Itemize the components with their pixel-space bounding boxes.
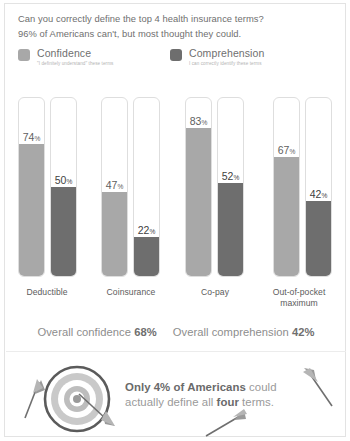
dart-icon-center <box>75 390 117 432</box>
bar-fill <box>218 183 243 276</box>
bar-value-label: 67% <box>274 144 299 156</box>
bar-value-label: 83% <box>186 115 211 127</box>
dart-icon-left <box>15 376 51 422</box>
bar-value-label: 22% <box>134 224 159 236</box>
bar-fill <box>134 237 159 276</box>
bar-fill <box>102 192 127 276</box>
bar-value-label: 42% <box>306 188 331 200</box>
bar-copay-comprehension: 52% <box>217 97 244 277</box>
bar-fill <box>51 187 76 276</box>
footer: Only 4% of Americans could actually defi… <box>5 354 347 438</box>
divider <box>6 351 346 352</box>
bar-fill <box>19 144 44 276</box>
bar-coinsurance-comprehension: 22% <box>133 97 160 277</box>
footer-lead: Only 4% of Americans <box>125 381 246 393</box>
category-label-coinsurance: Coinsurance <box>83 287 179 298</box>
bar-fill <box>186 128 211 276</box>
bar-deductible-confidence: 74% <box>18 97 45 277</box>
bar-fill <box>274 157 299 276</box>
footer-text: Only 4% of Americans could actually defi… <box>125 380 305 410</box>
overall-comprehension-text: Overall comprehension <box>173 326 292 338</box>
bar-oopmax-confidence: 67% <box>273 97 300 277</box>
overall-confidence-text: Overall confidence <box>37 326 134 338</box>
infographic-card: Can you correctly define the top 4 healt… <box>4 3 346 437</box>
bar-coinsurance-confidence: 47% <box>101 97 128 277</box>
footer-tail: terms. <box>239 396 274 408</box>
bar-value-label: 74% <box>19 131 44 143</box>
bar-copay-confidence: 83% <box>185 97 212 277</box>
bar-value-label: 47% <box>102 179 127 191</box>
footer-emph: four <box>217 396 239 408</box>
bar-value-label: 52% <box>218 170 243 182</box>
bar-oopmax-comprehension: 42% <box>305 97 332 277</box>
bar-value-label: 50% <box>51 174 76 186</box>
bar-fill <box>306 201 331 276</box>
overall-summary: Overall confidence 68%Overall comprehens… <box>5 326 347 338</box>
overall-confidence-value: 68% <box>134 326 157 338</box>
overall-comprehension-value: 42% <box>292 326 315 338</box>
dart-icon-right <box>300 366 342 414</box>
dart-icon-bottom <box>200 406 252 441</box>
category-label-copay: Co-pay <box>167 287 263 298</box>
category-label-oopmax: Out-of-pocket maximum <box>251 287 347 308</box>
category-label-deductible: Deductible <box>0 287 95 298</box>
bar-deductible-comprehension: 50% <box>50 97 77 277</box>
